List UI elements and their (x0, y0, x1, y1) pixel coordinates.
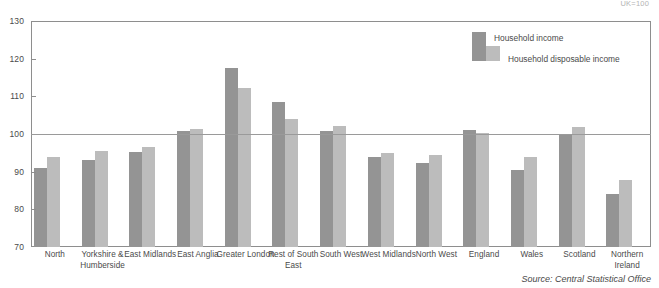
bar (476, 133, 489, 248)
bar (559, 135, 572, 247)
bar (333, 126, 346, 247)
bar (368, 157, 381, 247)
y-tick-label: 100 (10, 129, 24, 139)
y-tick-mark (31, 172, 36, 173)
bar (320, 131, 333, 247)
reference-gridline-100 (31, 134, 651, 135)
bar (524, 157, 537, 247)
x-tick-label: Northern Ireland (597, 250, 657, 271)
y-tick-label: 110 (10, 91, 24, 101)
bar (572, 127, 585, 247)
legend-swatch-household-disposable-income (486, 46, 500, 61)
bar (272, 102, 285, 247)
bar (238, 88, 251, 247)
y-tick-mark (31, 96, 36, 97)
y-tick-label: 90 (14, 167, 24, 177)
y-tick-label: 70 (14, 242, 24, 252)
bar (463, 130, 476, 247)
legend-label-household-income: Household income (494, 33, 563, 43)
source-note: Source: Central Statistical Office (521, 274, 651, 284)
bar (177, 131, 190, 247)
y-tick-label: 130 (10, 16, 24, 26)
y-axis: 130120110100908070 (0, 21, 31, 247)
bar (34, 168, 47, 247)
bar (142, 147, 155, 247)
legend-swatch-household-income (472, 32, 486, 61)
index-note: UK=100 (620, 0, 649, 8)
y-tick-label: 120 (10, 54, 24, 64)
y-tick-mark (31, 59, 36, 60)
bar (429, 155, 442, 247)
bar (225, 68, 238, 247)
y-tick-mark (31, 209, 36, 210)
bar (606, 194, 619, 247)
legend-label-household-disposable-income: Household disposable income (508, 54, 620, 64)
bar (511, 170, 524, 247)
bar (619, 180, 632, 247)
household-income-bar-chart: UK=100 130120110100908070 NorthYorkshire… (0, 0, 659, 288)
bar (95, 151, 108, 247)
bar (190, 129, 203, 247)
bar (416, 163, 429, 247)
bar (82, 160, 95, 247)
bar (381, 153, 394, 247)
bar (47, 157, 60, 247)
chart-legend: Household income Household disposable in… (472, 32, 652, 66)
bar (285, 119, 298, 247)
bar (129, 152, 142, 247)
y-tick-label: 80 (14, 204, 24, 214)
